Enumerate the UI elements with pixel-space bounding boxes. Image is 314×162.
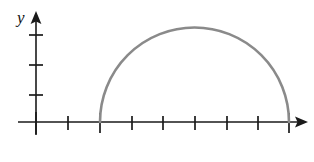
semicircle-curve [100,27,289,122]
semicircle-figure: y [0,0,314,162]
graph-canvas: y [0,0,314,162]
y-axis-label: y [15,8,25,27]
x-axis-ticks [36,112,289,134]
